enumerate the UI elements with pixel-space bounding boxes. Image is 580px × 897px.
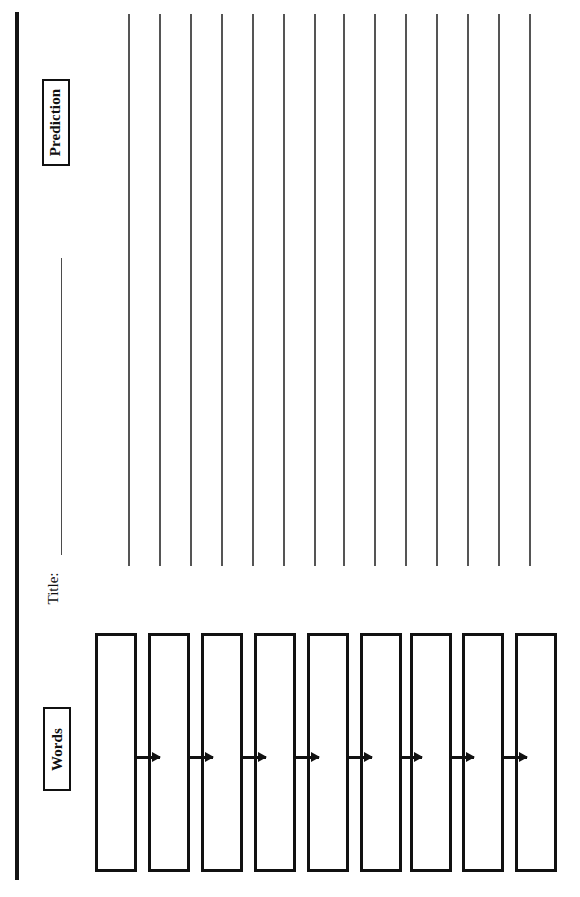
sequence-arrow-icon	[349, 756, 372, 759]
sequence-arrow-icon	[504, 756, 527, 759]
sequence-arrow-icon	[137, 756, 160, 759]
sequence-arrow-icon	[190, 756, 213, 759]
word-sequence-row	[0, 0, 580, 897]
sequence-arrow-icon	[399, 756, 422, 759]
worksheet-page: Prediction Title: Words	[0, 0, 580, 897]
sequence-arrow-icon	[451, 756, 474, 759]
word-box[interactable]	[95, 633, 137, 872]
sequence-arrow-icon	[296, 756, 319, 759]
sequence-arrow-icon	[243, 756, 266, 759]
